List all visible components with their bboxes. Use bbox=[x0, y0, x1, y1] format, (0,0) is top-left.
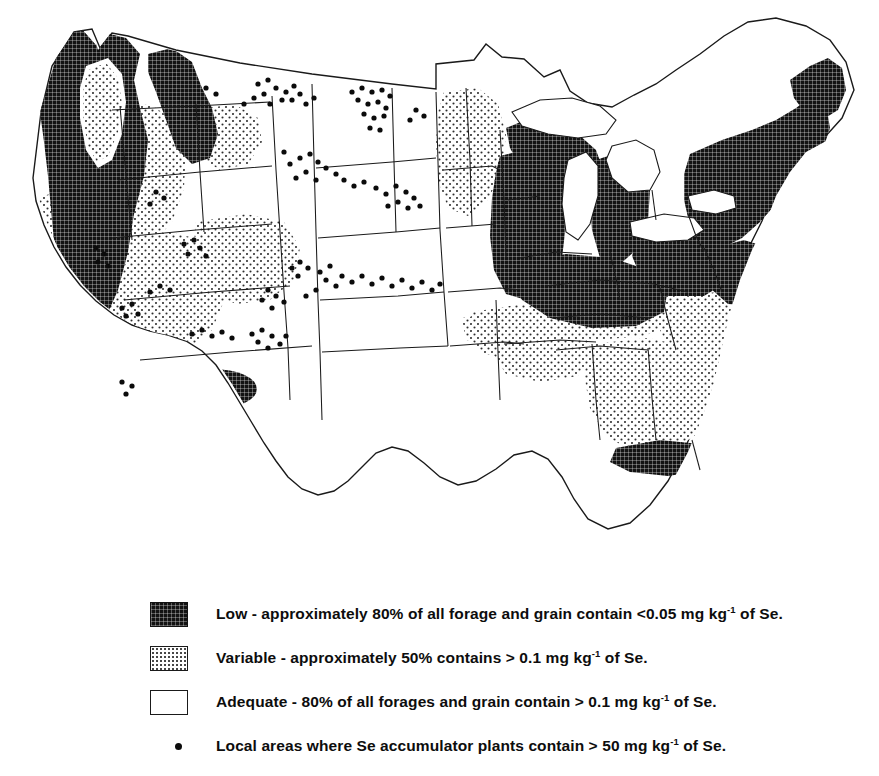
dark-crosshatch-swatch bbox=[150, 602, 188, 627]
stippled-swatch bbox=[150, 646, 188, 671]
legend-label-local-exponent: -1 bbox=[670, 736, 679, 747]
legend-item-low: Low - approximately 80% of all forage an… bbox=[150, 592, 783, 636]
map-legend: Low - approximately 80% of all forage an… bbox=[0, 588, 879, 776]
us-selenium-map bbox=[0, 0, 879, 580]
legend-label-adequate: Adequate - 80% of all forages and grain … bbox=[216, 693, 717, 711]
legend-label-local-tail: of Se. bbox=[679, 737, 726, 754]
legend-label-low-tail: of Se. bbox=[736, 605, 783, 622]
map-svg bbox=[0, 0, 879, 580]
legend-swatch-holder-dot bbox=[150, 743, 206, 750]
legend-label-adequate-main: Adequate - 80% of all forages and grain … bbox=[216, 693, 661, 710]
legend-swatch-holder-low bbox=[150, 602, 206, 627]
legend-label-low-exponent: -1 bbox=[727, 604, 736, 615]
legend-item-variable: Variable - approximately 50% contains > … bbox=[150, 636, 648, 680]
black-dot-marker bbox=[175, 743, 182, 750]
legend-label-variable-main: Variable - approximately 50% contains > … bbox=[216, 649, 592, 666]
legend-item-local-accumulator: Local areas where Se accumulator plants … bbox=[150, 724, 726, 768]
legend-label-local-accumulator: Local areas where Se accumulator plants … bbox=[216, 737, 726, 755]
legend-label-adequate-tail: of Se. bbox=[669, 693, 716, 710]
legend-swatch-holder-adequate bbox=[150, 690, 206, 715]
legend-label-local-main: Local areas where Se accumulator plants … bbox=[216, 737, 670, 754]
legend-item-adequate: Adequate - 80% of all forages and grain … bbox=[150, 680, 717, 724]
selenium-status-figure: Low - approximately 80% of all forage an… bbox=[0, 0, 879, 776]
legend-label-variable: Variable - approximately 50% contains > … bbox=[216, 649, 648, 667]
legend-label-low-main: Low - approximately 80% of all forage an… bbox=[216, 605, 727, 622]
legend-label-low: Low - approximately 80% of all forage an… bbox=[216, 605, 783, 623]
legend-label-variable-tail: of Se. bbox=[600, 649, 647, 666]
white-swatch bbox=[150, 690, 188, 715]
legend-swatch-holder-variable bbox=[150, 646, 206, 671]
